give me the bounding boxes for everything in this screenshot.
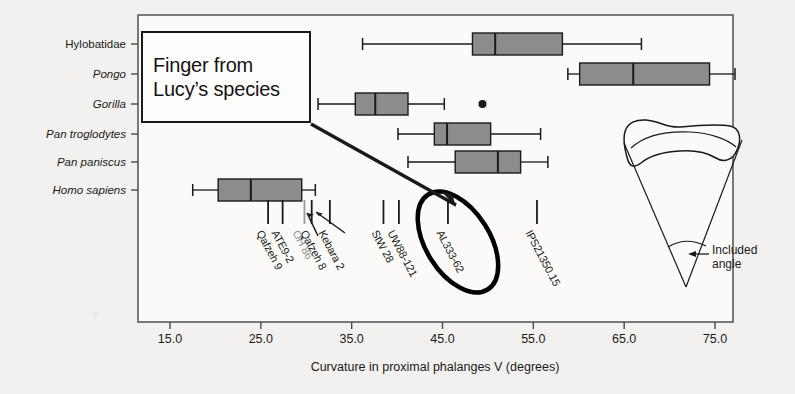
callout-line-1: Finger from [153,53,309,77]
x-tick-label-35-0: 35.0 [339,332,363,346]
y-axis-label-pongo: Pongo [0,68,126,80]
y-axis-label-pan-paniscus: Pan paniscus [0,156,126,168]
y-axis-label-gorilla: Gorilla [0,98,126,110]
x-tick-label-55-0: 55.0 [521,332,545,346]
box-pan-paniscus [455,151,520,173]
included-angle-line-2: angle [712,258,757,272]
x-tick-label-15-0: 15.0 [158,332,182,346]
x-tick-label-65-0: 65.0 [612,332,636,346]
callout-box: Finger from Lucy’s species [141,31,311,123]
outlier-gorilla-0 [478,100,486,108]
box-pongo [580,63,710,85]
x-tick-label-45-0: 45.0 [430,332,454,346]
box-plot-figure: HylobatidaePongoGorillaPan troglodytesPa… [0,0,795,394]
y-axis-label-hylobatidae: Hylobatidae [0,38,126,50]
chart-canvas [0,0,795,394]
y-axis-label-homo-sapiens: Homo sapiens [0,184,126,196]
box-homo-sapiens [218,179,302,201]
included-angle-label: Included angle [712,244,757,272]
box-hylobatidae [472,33,562,55]
included-angle-line-1: Included [712,244,757,258]
box-pan-troglodytes [434,123,490,145]
x-tick-label-75-0: 75.0 [703,332,727,346]
callout-line-2: Lucy’s species [153,77,309,101]
y-axis-label-pan-troglodytes: Pan troglodytes [0,128,126,140]
x-tick-label-25-0: 25.0 [249,332,273,346]
box-gorilla [355,93,408,115]
x-axis-title: Curvature in proximal phalanges V (degre… [311,360,560,374]
